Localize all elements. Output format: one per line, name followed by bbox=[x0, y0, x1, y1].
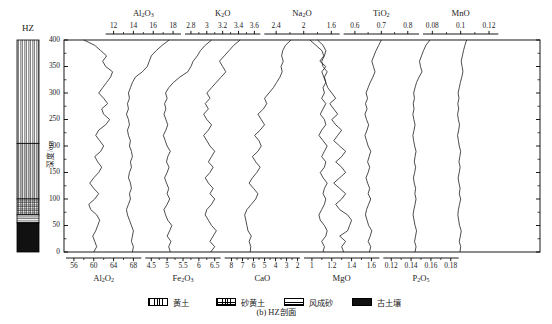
lithology-column-header: HZ bbox=[22, 24, 34, 33]
tick-label-MgO-1.6: 1.6 bbox=[367, 262, 376, 269]
tick-label-K2O-2.8: 2.8 bbox=[186, 22, 195, 29]
legend-label-2: 风成砂 bbox=[309, 298, 333, 308]
series-curve-Fe2O3 bbox=[163, 40, 211, 252]
depth-tick-label-300: 300 bbox=[49, 89, 60, 96]
legend-label-0: 黄土 bbox=[173, 298, 189, 308]
depth-tick-label-250: 250 bbox=[49, 115, 60, 122]
depth-tick-label-50: 50 bbox=[53, 221, 60, 228]
tick-label-P2O5-0.16: 0.16 bbox=[424, 262, 437, 269]
tick-label-Fe2O3-5.5: 5.5 bbox=[178, 262, 187, 269]
tick-label-P2O5-0.12: 0.12 bbox=[385, 262, 398, 269]
tick-label-TiO2-0.8: 0.8 bbox=[403, 22, 412, 29]
tick-label-K2O-3.4: 3.4 bbox=[234, 22, 243, 29]
tick-label-TiO2-0.6: 0.6 bbox=[350, 22, 359, 29]
tick-label-CaO-6: 6 bbox=[252, 262, 256, 269]
axis-title-Al2O3: Al2O3 bbox=[133, 9, 154, 18]
series-curve-MnO bbox=[458, 40, 467, 252]
legend-swatch-solid-black-icon bbox=[352, 298, 372, 306]
depth-axis-title: 深度/cm bbox=[44, 141, 55, 168]
tick-label-MgO-1: 1 bbox=[310, 262, 314, 269]
tick-label-K2O-3.6: 3.6 bbox=[250, 22, 259, 29]
lithology-unit-1 bbox=[17, 143, 39, 199]
tick-label-CaO-3: 3 bbox=[285, 262, 289, 269]
tick-label-TiO2-0.7: 0.7 bbox=[377, 22, 386, 29]
lithology-unit-2 bbox=[17, 199, 39, 215]
tick-label-Al2O2-60: 60 bbox=[90, 262, 97, 269]
chart-canvas bbox=[0, 0, 552, 324]
tick-label-MnO-0.1: 0.1 bbox=[456, 22, 465, 29]
lithology-unit-0 bbox=[17, 40, 39, 143]
tick-label-K2O-3.2: 3.2 bbox=[218, 22, 227, 29]
axis-title-CaO: CaO bbox=[254, 274, 270, 283]
series-curve-Al2O2 bbox=[84, 40, 113, 252]
tick-label-Al2O2-68: 68 bbox=[130, 262, 137, 269]
plot-frame bbox=[64, 40, 540, 252]
tick-label-Fe2O3-4.5: 4.5 bbox=[147, 262, 156, 269]
legend-swatch-vertical-lines-icon bbox=[148, 298, 168, 306]
tick-label-Al2O3-18: 18 bbox=[169, 22, 176, 29]
axis-title-Al2O2: Al2O2 bbox=[93, 274, 114, 283]
series-curve-MgO bbox=[310, 40, 352, 252]
series-curve-P2O5 bbox=[413, 40, 430, 252]
series-curve-Na2O bbox=[318, 40, 328, 252]
tick-label-Fe2O3-5: 5 bbox=[165, 262, 169, 269]
lithology-unit-3 bbox=[17, 215, 39, 223]
axis-title-P2O5: P2O5 bbox=[412, 274, 429, 283]
tick-label-Fe2O3-6: 6 bbox=[197, 262, 201, 269]
series-curve-Al2O3 bbox=[126, 40, 169, 252]
tick-label-Al2O2-64: 64 bbox=[110, 262, 117, 269]
axis-title-TiO2: TiO2 bbox=[373, 9, 390, 18]
figure-caption: (b) HZ剖面 bbox=[256, 309, 295, 317]
tick-label-CaO-2: 2 bbox=[296, 262, 300, 269]
tick-label-Fe2O3-6.5: 6.5 bbox=[210, 262, 219, 269]
depth-tick-label-0: 0 bbox=[56, 248, 60, 255]
depth-tick-label-100: 100 bbox=[49, 195, 60, 202]
axis-title-MgO: MgO bbox=[333, 274, 351, 283]
tick-label-MnO-0.12: 0.12 bbox=[483, 22, 496, 29]
tick-label-MnO-0.08: 0.08 bbox=[426, 22, 439, 29]
tick-label-K2O-3: 3 bbox=[205, 22, 209, 29]
tick-label-Na2O-2.4: 2.4 bbox=[272, 22, 281, 29]
series-curve-CaO bbox=[245, 40, 291, 252]
series-curve-K2O bbox=[204, 40, 240, 252]
figure-hz-geochemical-profile: 050100150200250300350400深度/cmHZ12141618A… bbox=[0, 0, 552, 324]
tick-label-Al2O2-56: 56 bbox=[70, 262, 77, 269]
tick-label-MgO-1.4: 1.4 bbox=[347, 262, 356, 269]
depth-tick-label-150: 150 bbox=[49, 168, 60, 175]
legend-label-1: 砂黄土 bbox=[241, 298, 265, 308]
tick-label-Al2O3-16: 16 bbox=[150, 22, 157, 29]
legend-swatch-cross-hatch-icon bbox=[216, 298, 236, 306]
legend-item-0: 黄土 bbox=[148, 292, 189, 310]
axis-title-Na2O: Na2O bbox=[292, 9, 311, 18]
tick-label-CaO-7: 7 bbox=[241, 262, 245, 269]
legend-item-3: 古土壤 bbox=[352, 292, 401, 310]
tick-label-P2O5-0.14: 0.14 bbox=[405, 262, 418, 269]
axis-title-K2O: K2O bbox=[215, 9, 230, 18]
tick-label-Na2O-2: 2 bbox=[302, 22, 306, 29]
depth-tick-label-400: 400 bbox=[49, 36, 60, 43]
depth-tick-label-350: 350 bbox=[49, 62, 60, 69]
tick-label-Al2O3-12: 12 bbox=[110, 22, 117, 29]
tick-label-Na2O-1.6: 1.6 bbox=[327, 22, 336, 29]
legend-swatch-horizontal-lines-icon bbox=[284, 298, 304, 306]
tick-label-CaO-8: 8 bbox=[230, 262, 234, 269]
tick-label-P2O5-0.18: 0.18 bbox=[444, 262, 457, 269]
tick-label-MgO-1.2: 1.2 bbox=[327, 262, 336, 269]
axis-title-MnO: MnO bbox=[452, 9, 470, 18]
tick-label-Al2O3-14: 14 bbox=[130, 22, 137, 29]
tick-label-CaO-4: 4 bbox=[274, 262, 278, 269]
lithology-unit-4 bbox=[17, 223, 39, 252]
legend-label-3: 古土壤 bbox=[377, 298, 401, 308]
series-curve-TiO2 bbox=[365, 40, 381, 252]
axis-title-Fe2O3: Fe2O3 bbox=[173, 274, 194, 283]
tick-label-CaO-5: 5 bbox=[263, 262, 267, 269]
